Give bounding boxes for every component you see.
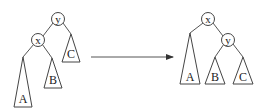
subtree-a-label: A bbox=[19, 92, 28, 106]
left-subtree-c: C bbox=[62, 34, 80, 62]
right-subtree-c: C bbox=[233, 57, 253, 84]
left-subtree-a: A bbox=[14, 57, 32, 107]
right-node-x: x bbox=[202, 13, 215, 26]
edge-y-x bbox=[43, 23, 53, 36]
edge-x-a bbox=[190, 23, 203, 33]
edge-y-b bbox=[215, 44, 224, 57]
edge-y-c bbox=[63, 23, 71, 34]
left-node-x: x bbox=[32, 34, 45, 47]
edge-x-b bbox=[42, 44, 52, 58]
left-subtree-b: B bbox=[44, 58, 62, 88]
right-subtree-b: B bbox=[205, 57, 225, 84]
node-y-label: y bbox=[55, 13, 61, 25]
left-node-y: y bbox=[52, 13, 65, 26]
node-x-label: x bbox=[35, 34, 41, 46]
right-subtree-a: A bbox=[180, 33, 200, 84]
subtree-c-label: C bbox=[239, 70, 247, 84]
right-tree: A B C x y bbox=[180, 13, 253, 85]
subtree-b-label: B bbox=[211, 70, 219, 84]
subtree-b-label: B bbox=[49, 73, 57, 87]
subtree-c-label: C bbox=[67, 47, 75, 61]
edge-x-a bbox=[23, 44, 34, 57]
edge-x-y bbox=[213, 23, 223, 36]
edge-y-c bbox=[233, 44, 243, 57]
subtree-a-label: A bbox=[186, 70, 195, 84]
node-x-label: x bbox=[205, 13, 211, 25]
rotation-diagram: A B C y x A B bbox=[0, 0, 265, 112]
node-y-label: y bbox=[225, 34, 231, 46]
left-tree: A B C y x bbox=[14, 13, 80, 108]
right-node-y: y bbox=[222, 34, 235, 47]
